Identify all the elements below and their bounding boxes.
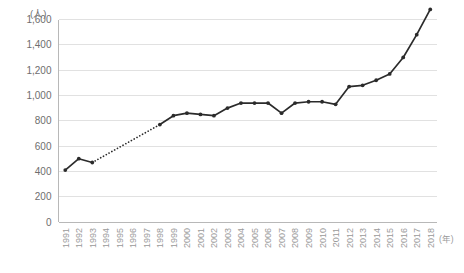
y-axis-tick-label: 0 (46, 217, 52, 228)
data-point-marker (347, 85, 351, 89)
x-axis-tick-label: 1998 (155, 228, 165, 248)
data-point-marker (77, 157, 81, 161)
data-point-marker (239, 101, 243, 105)
x-axis-tick-label: 1993 (88, 228, 98, 248)
y-axis-tick-label: 200 (35, 191, 52, 202)
data-point-marker (388, 72, 392, 76)
x-axis-tick-label: 2014 (372, 228, 382, 248)
data-point-marker (280, 111, 284, 115)
data-point-marker (293, 101, 297, 105)
x-axis-tick-label: 1994 (101, 228, 111, 248)
data-point-marker (334, 102, 338, 106)
data-point-marker (226, 106, 230, 110)
x-axis-tick-label: 1991 (61, 228, 71, 248)
y-axis-tick-label: 600 (35, 141, 52, 152)
x-axis-tick-label: 2008 (290, 228, 300, 248)
data-point-marker (63, 168, 67, 172)
data-point-marker (320, 100, 324, 104)
x-axis-tick-label: 2009 (304, 228, 314, 248)
x-axis-tick-label: 2007 (277, 228, 287, 248)
x-axis-tick-label: 2013 (358, 228, 368, 248)
data-point-marker (428, 7, 432, 11)
x-axis-tick-label: 1999 (169, 228, 179, 248)
data-point-marker (361, 83, 365, 87)
x-axis-tick-label: 2002 (209, 228, 219, 248)
x-axis-tick-label: 1995 (115, 228, 125, 248)
x-axis-tick-label: 1997 (142, 228, 152, 248)
series-line-interpolated (92, 125, 160, 163)
y-axis-tick-label: 1,000 (26, 90, 51, 101)
data-point-marker (158, 123, 162, 127)
data-point-marker (212, 114, 216, 118)
data-point-marker (90, 161, 94, 165)
data-point-marker (253, 101, 257, 105)
y-axis-tick-label: 400 (35, 166, 52, 177)
data-point-marker (185, 111, 189, 115)
x-axis-tick-label: 2017 (412, 228, 422, 248)
data-point-marker (266, 101, 270, 105)
y-axis-tick-label: 800 (35, 115, 52, 126)
x-axis-tick-label: 2003 (223, 228, 233, 248)
x-axis-tick-label: 1996 (128, 228, 138, 248)
y-axis-tick-label: 1,400 (26, 39, 51, 50)
x-axis-tick-label: 2004 (236, 228, 246, 248)
x-axis-tick-label: 2016 (399, 228, 409, 248)
line-chart: (人)02004006008001,0001,2001,4001,6001991… (0, 0, 464, 273)
data-point-marker (415, 33, 419, 37)
y-axis-tick-label: 1,600 (26, 14, 51, 25)
x-axis-tick-label: 2006 (263, 228, 273, 248)
x-axis-tick-label: 2012 (345, 228, 355, 248)
data-point-marker (374, 78, 378, 82)
x-axis-tick-label: 2018 (426, 228, 436, 248)
x-axis-tick-label: 2005 (250, 228, 260, 248)
data-point-marker (172, 114, 176, 118)
data-point-marker (307, 100, 311, 104)
series-line (160, 9, 430, 124)
data-point-marker (401, 56, 405, 60)
x-axis-tick-label: 2010 (318, 228, 328, 248)
x-axis-tick-label: 2000 (182, 228, 192, 248)
x-axis-tick-label: 2011 (331, 228, 341, 247)
x-axis-tick-label: 2015 (385, 228, 395, 248)
data-point-marker (199, 113, 203, 117)
y-axis-tick-label: 1,200 (26, 65, 51, 76)
x-axis-unit-label: (年) (439, 234, 454, 244)
x-axis-tick-label: 2001 (196, 228, 206, 248)
x-axis-tick-label: 1992 (74, 228, 84, 248)
chart-canvas: (人)02004006008001,0001,2001,4001,6001991… (0, 0, 464, 273)
